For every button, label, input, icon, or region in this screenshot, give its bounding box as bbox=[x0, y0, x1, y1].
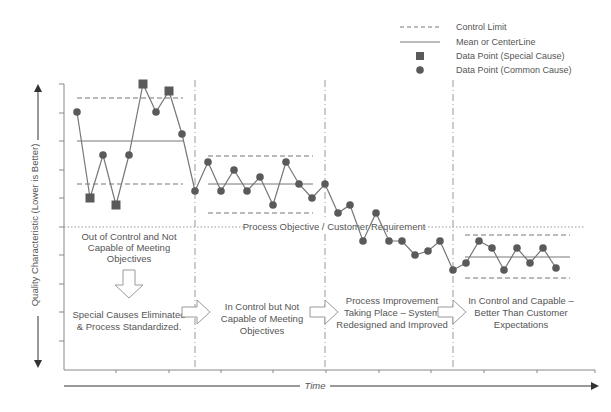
legend-label-control_limit: Control Limit bbox=[456, 22, 507, 32]
phase2-status-text: In Control but NotCapable of MeetingObje… bbox=[221, 301, 303, 336]
common-cause-point bbox=[73, 108, 81, 116]
common-cause-point bbox=[436, 237, 444, 245]
common-cause-point bbox=[424, 247, 432, 255]
common-cause-point bbox=[552, 264, 560, 272]
phase4-status-text: In Control and Capable –Better Than Cust… bbox=[468, 295, 574, 330]
common-cause-point bbox=[526, 259, 534, 267]
common-cause-point bbox=[513, 244, 521, 252]
common-cause-point bbox=[488, 244, 496, 252]
phase1-status-text: Out of Control and NotCapable of Meeting… bbox=[81, 231, 176, 264]
objective-label: Process Objective / Customer Requirement bbox=[243, 221, 426, 232]
legend-label-common: Data Point (Common Cause) bbox=[456, 65, 572, 75]
legend-circle-icon bbox=[416, 66, 424, 74]
down-arrow-icon bbox=[115, 270, 143, 298]
common-cause-point bbox=[539, 244, 547, 252]
common-cause-point bbox=[308, 194, 316, 202]
common-cause-point bbox=[385, 237, 393, 245]
legend-label-special: Data Point (Special Cause) bbox=[456, 51, 565, 61]
phase3-action-text: Process ImprovementTaking Place – System… bbox=[336, 295, 447, 330]
common-cause-point bbox=[398, 237, 406, 245]
common-cause-point bbox=[295, 180, 303, 188]
common-cause-point bbox=[178, 130, 186, 138]
phase-annotations: Out of Control and NotCapable of Meeting… bbox=[72, 231, 574, 336]
common-cause-point bbox=[500, 266, 508, 274]
right-arrow-icon bbox=[182, 300, 210, 324]
special-cause-point bbox=[112, 201, 121, 210]
common-cause-point bbox=[449, 266, 457, 274]
common-cause-point bbox=[282, 158, 290, 166]
right-arrow-icon bbox=[310, 300, 338, 324]
common-cause-point bbox=[125, 151, 133, 159]
special-cause-point bbox=[86, 194, 95, 203]
control-chart: Control LimitMean or CenterLineData Poin… bbox=[0, 0, 611, 412]
common-cause-point bbox=[256, 173, 264, 181]
common-cause-point bbox=[411, 251, 419, 259]
common-cause-point bbox=[462, 259, 470, 267]
legend-label-mean: Mean or CenterLine bbox=[456, 37, 536, 47]
phase1-action-text: Special Causes Eliminated& Process Stand… bbox=[72, 309, 185, 332]
y-axis-label: Quality Characteristic (Lower is Better) bbox=[29, 144, 40, 307]
common-cause-point bbox=[152, 108, 160, 116]
common-cause-point bbox=[99, 151, 107, 159]
common-cause-point bbox=[269, 201, 277, 209]
legend: Control LimitMean or CenterLineData Poin… bbox=[400, 22, 572, 75]
legend-square-icon bbox=[416, 52, 424, 60]
common-cause-point bbox=[372, 209, 380, 217]
common-cause-point bbox=[334, 209, 342, 217]
common-cause-point bbox=[359, 237, 367, 245]
common-cause-point bbox=[475, 237, 483, 245]
special-cause-point bbox=[165, 87, 174, 96]
common-cause-point bbox=[243, 187, 251, 195]
common-cause-point bbox=[321, 180, 329, 188]
x-axis-label: Time bbox=[304, 380, 325, 391]
common-cause-point bbox=[217, 187, 225, 195]
common-cause-point bbox=[346, 201, 354, 209]
common-cause-point bbox=[204, 158, 212, 166]
common-cause-point bbox=[230, 166, 238, 174]
common-cause-point bbox=[191, 187, 199, 195]
special-cause-point bbox=[139, 80, 148, 89]
